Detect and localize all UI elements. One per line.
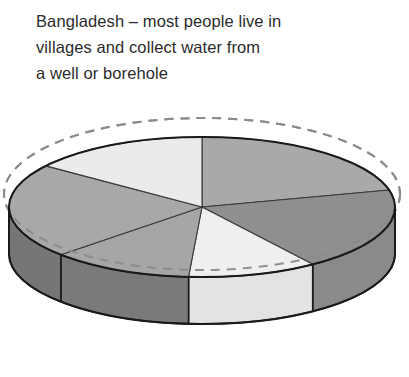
pie-chart-3d <box>0 100 409 377</box>
chart-caption: Bangladesh – most people live in village… <box>36 8 376 86</box>
pie-chart-svg <box>0 100 409 377</box>
